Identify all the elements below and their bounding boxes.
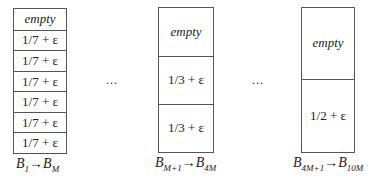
bin-cell-item: 1/7 + ε: [14, 132, 66, 153]
bin-cell-item: 1/2 + ε: [302, 79, 354, 153]
bin-cell-item: 1/7 + ε: [14, 91, 66, 112]
bin-cell-empty: empty: [14, 9, 66, 30]
bin-cell-item: 1/3 + ε: [159, 104, 213, 152]
bin-group-1-label: B1→BM: [16, 156, 59, 174]
ellipsis-1: ...: [106, 73, 118, 88]
bin-cell-item: 1/7 + ε: [14, 30, 66, 51]
bin-group-3: empty 1/2 + ε: [301, 7, 355, 153]
bin-group-1: empty 1/7 + ε 1/7 + ε 1/7 + ε 1/7 + ε 1/…: [13, 8, 67, 154]
ellipsis-2: ...: [252, 73, 264, 88]
bin-cell-item: 1/3 + ε: [159, 56, 213, 104]
bin-cell-item: 1/7 + ε: [14, 71, 66, 92]
bin-cell-item: 1/7 + ε: [14, 50, 66, 71]
bin-cell-empty: empty: [159, 8, 213, 56]
bin-cell-item: 1/7 + ε: [14, 112, 66, 133]
bin-group-2-label: BM+1→B4M: [155, 155, 216, 173]
bin-cell-empty: empty: [302, 8, 354, 79]
bin-group-3-label: B4M+1→B10M: [293, 155, 363, 173]
bin-group-2: empty 1/3 + ε 1/3 + ε: [158, 7, 214, 153]
